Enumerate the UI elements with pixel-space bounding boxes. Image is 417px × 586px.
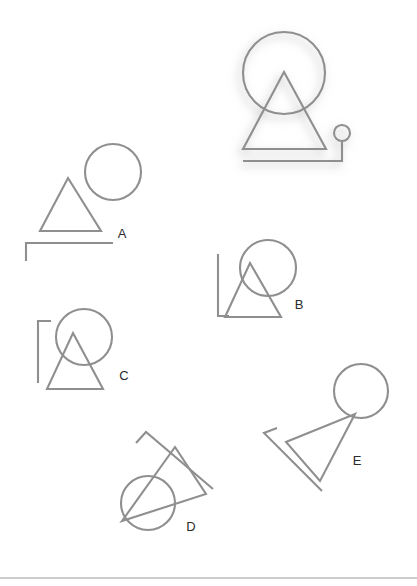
option-c-circle: [56, 309, 112, 365]
option-e-triangle: [286, 414, 355, 481]
option-a-circle: [85, 144, 141, 200]
option-c-baseline-with-stem: [38, 321, 51, 383]
option-d-baseline-with-stem: [136, 432, 213, 489]
option-d-group[interactable]: D: [121, 432, 213, 534]
option-e-label: E: [353, 453, 362, 468]
reference-baseline-with-stem: [243, 142, 342, 161]
option-b-group[interactable]: B: [218, 240, 303, 317]
option-d-label: D: [186, 519, 195, 534]
option-a-baseline-with-stem: [26, 243, 113, 261]
reference-figure: [243, 32, 350, 161]
option-b-baseline-with-stem: [218, 254, 229, 316]
reference-small-circle: [334, 125, 350, 141]
option-a-label: A: [118, 226, 127, 241]
option-c-label: C: [119, 368, 128, 383]
option-e-circle: [334, 364, 388, 418]
option-b-label: B: [295, 297, 304, 312]
puzzle-canvas: A B C D E: [0, 0, 417, 586]
option-b-triangle: [225, 263, 281, 317]
option-a-group[interactable]: A: [26, 144, 141, 261]
shape-analogy-puzzle: A B C D E: [0, 0, 417, 586]
reference-triangle: [243, 72, 326, 149]
option-d-triangle: [122, 447, 206, 521]
option-c-group[interactable]: C: [38, 309, 129, 389]
option-a-triangle: [40, 178, 101, 231]
option-e-baseline-with-stem: [264, 428, 322, 491]
option-e-group[interactable]: E: [264, 364, 388, 491]
